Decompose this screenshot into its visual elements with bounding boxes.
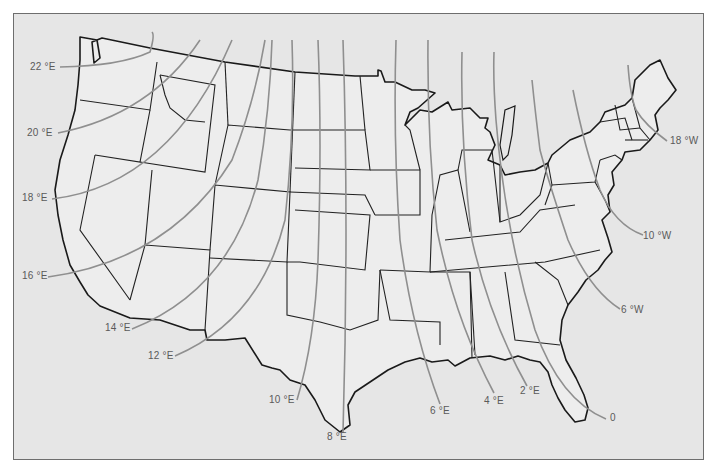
isogonic-label-18E: 18 °E — [22, 192, 48, 203]
isogonic-label-6E: 6 °E — [430, 405, 450, 416]
us-landmass — [55, 37, 676, 432]
lake-michigan — [500, 106, 515, 160]
us-map — [0, 0, 718, 472]
isogonic-label-0: 0 — [610, 412, 616, 423]
isogonic-label-16E: 16 °E — [22, 270, 48, 281]
isogonic-label-10E: 10 °E — [269, 394, 295, 405]
isogonic-label-6W: 6 °W — [621, 304, 644, 315]
isogonic-label-2E: 2 °E — [520, 385, 540, 396]
isogonic-label-12E: 12 °E — [148, 350, 174, 361]
isogonic-label-10W: 10 °W — [643, 230, 671, 241]
isogonic-label-4E: 4 °E — [484, 395, 504, 406]
isogonic-label-20E: 20 °E — [27, 127, 53, 138]
isogonic-label-14E: 14 °E — [105, 322, 131, 333]
isogonic-label-22E: 22 °E — [30, 61, 56, 72]
isogonic-label-18W: 18 °W — [670, 135, 698, 146]
isogonic-label-8E: 8 °E — [327, 431, 347, 442]
